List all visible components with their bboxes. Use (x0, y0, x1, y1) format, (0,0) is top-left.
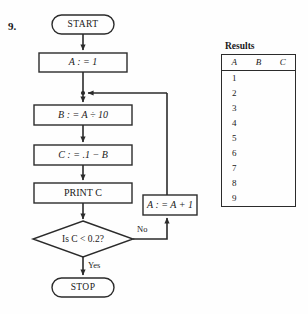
results-cell-a: 3 (222, 101, 247, 116)
results-cell-b (246, 191, 270, 207)
results-table-header-row: A B C (222, 55, 296, 71)
process-print-c-label: PRINT C (64, 187, 102, 198)
results-cell-b (246, 116, 270, 131)
problem-number: 9. (8, 20, 17, 32)
table-row: 1 (222, 71, 296, 87)
results-column-header-c: C (271, 55, 296, 71)
results-cell-c (271, 86, 296, 101)
results-cell-a: 8 (222, 176, 247, 191)
table-row: 2 (222, 86, 296, 101)
start-terminator-label: START (68, 19, 99, 29)
results-cell-c (271, 131, 296, 146)
table-row: 6 (222, 146, 296, 161)
process-compute-b-label: B : = A ÷ 10 (58, 109, 108, 120)
results-cell-a: 1 (222, 71, 247, 87)
results-cell-c (271, 101, 296, 116)
results-cell-a: 7 (222, 161, 247, 176)
results-cell-c (271, 161, 296, 176)
results-cell-c (271, 146, 296, 161)
results-title: Results (225, 41, 299, 52)
branch-label-no: No (137, 224, 147, 234)
results-cell-b (246, 101, 270, 116)
results-column-header-b: B (246, 55, 270, 71)
table-row: 4 (222, 116, 296, 131)
decision-label: Is C < 0.2? (62, 234, 104, 244)
results-panel: Results A B C 123456789 (221, 41, 299, 207)
results-cell-a: 4 (222, 116, 247, 131)
results-cell-b (246, 146, 270, 161)
branch-label-yes: Yes (88, 260, 100, 270)
results-cell-b (246, 71, 270, 87)
results-table-body: 123456789 (222, 71, 296, 207)
process-compute-c-label: C : = .1 − B (58, 149, 108, 160)
results-cell-b (246, 161, 270, 176)
results-cell-b (246, 86, 270, 101)
process-increment-a-label: A : = A + 1 (146, 199, 193, 210)
results-column-header-a: A (222, 55, 247, 71)
results-cell-c (271, 71, 296, 87)
results-cell-b (246, 131, 270, 146)
loop-junction-dot (81, 91, 85, 95)
table-row: 5 (222, 131, 296, 146)
table-row: 9 (222, 191, 296, 207)
results-cell-c (271, 116, 296, 131)
table-row: 7 (222, 161, 296, 176)
table-row: 3 (222, 101, 296, 116)
results-cell-c (271, 176, 296, 191)
results-table: A B C 123456789 (221, 54, 296, 207)
results-cell-c (271, 191, 296, 207)
stop-terminator-label: STOP (71, 282, 96, 292)
results-cell-a: 6 (222, 146, 247, 161)
process-init-a-label: A : = 1 (68, 56, 98, 67)
table-row: 8 (222, 176, 296, 191)
results-cell-b (246, 176, 270, 191)
results-cell-a: 2 (222, 86, 247, 101)
results-cell-a: 9 (222, 191, 247, 207)
results-cell-a: 5 (222, 131, 247, 146)
